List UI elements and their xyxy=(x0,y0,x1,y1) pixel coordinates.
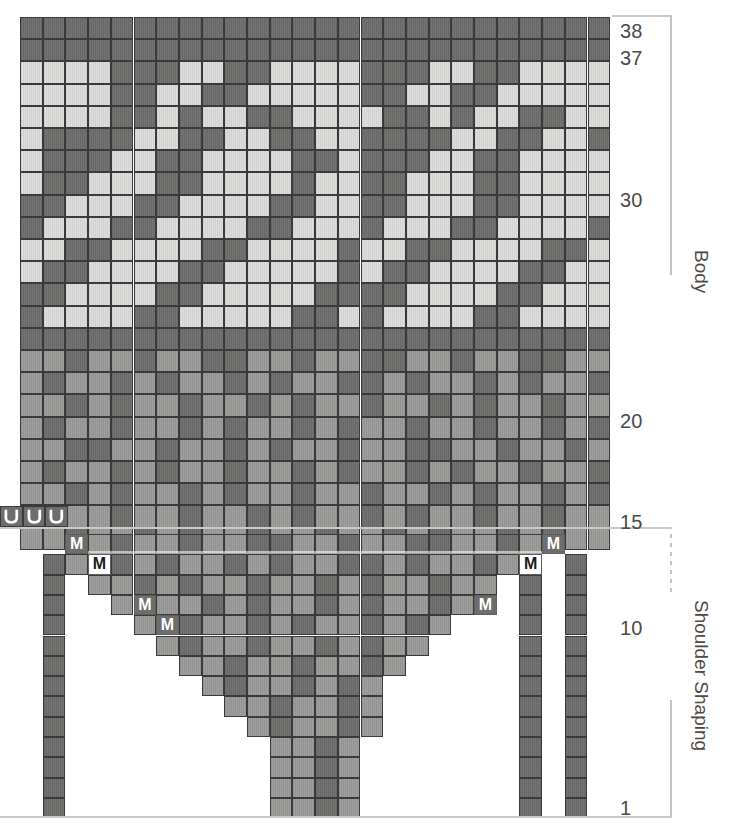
chart-cell xyxy=(542,283,565,305)
chart-cell xyxy=(270,217,293,239)
chart-cell xyxy=(361,283,384,305)
chart-cell xyxy=(20,217,43,239)
chart-cell xyxy=(111,106,134,128)
chart-cell xyxy=(315,717,338,737)
chart-cell xyxy=(588,39,611,61)
shoulder-bracket xyxy=(670,700,672,818)
chart-cell xyxy=(406,17,429,39)
shoulder-bracket-dashed xyxy=(670,534,672,594)
chart-cell xyxy=(497,394,520,416)
chart-cell xyxy=(179,128,202,150)
chart-cell xyxy=(156,195,179,217)
chart-cell xyxy=(406,106,429,128)
chart-cell xyxy=(519,737,542,757)
chart-cell xyxy=(43,17,66,39)
chart-cell xyxy=(565,172,588,194)
chart-cell xyxy=(383,417,406,439)
chart-cell xyxy=(338,61,361,83)
chart-cell xyxy=(519,84,542,106)
chart-cell xyxy=(429,417,452,439)
chart-cell xyxy=(247,283,270,305)
chart-cell xyxy=(270,128,293,150)
chart-cell xyxy=(270,717,293,737)
chart-cell xyxy=(65,483,88,505)
chart-cell xyxy=(451,350,474,372)
chart-cell xyxy=(519,439,542,461)
chart-cell xyxy=(429,84,452,106)
chart-cell xyxy=(542,417,565,439)
chart-cell xyxy=(497,39,520,61)
chart-cell xyxy=(292,106,315,128)
chart-cell xyxy=(474,575,497,595)
chart-cell xyxy=(111,595,134,615)
chart-cell xyxy=(270,106,293,128)
chart-cell xyxy=(43,483,66,505)
chart-cell xyxy=(88,306,111,328)
chart-cell xyxy=(474,372,497,394)
purl-u-icon xyxy=(45,506,68,527)
chart-cell xyxy=(429,505,452,527)
chart-cell xyxy=(270,172,293,194)
chart-cell xyxy=(361,84,384,106)
chart-cell xyxy=(451,483,474,505)
chart-cell xyxy=(43,306,66,328)
chart-cell xyxy=(565,84,588,106)
chart-cell xyxy=(270,656,293,676)
chart-cell xyxy=(292,328,315,350)
chart-cell xyxy=(429,372,452,394)
chart-cell xyxy=(542,306,565,328)
chart-cell xyxy=(451,328,474,350)
chart-cell xyxy=(179,595,202,615)
chart-cell xyxy=(383,328,406,350)
chart-cell xyxy=(111,39,134,61)
chart-cell xyxy=(156,283,179,305)
chart-cell xyxy=(565,128,588,150)
chart-cell xyxy=(519,172,542,194)
chart-cell xyxy=(111,306,134,328)
chart-cell xyxy=(270,778,293,798)
chart-cell xyxy=(43,372,66,394)
chart-cell xyxy=(247,676,270,696)
chart-cell xyxy=(338,439,361,461)
chart-cell xyxy=(429,615,452,635)
chart-cell xyxy=(565,61,588,83)
chart-cell xyxy=(292,575,315,595)
chart-cell xyxy=(134,461,157,483)
chart-cell xyxy=(247,195,270,217)
chart-cell xyxy=(588,217,611,239)
chart-cell xyxy=(111,128,134,150)
chart-cell xyxy=(179,439,202,461)
chart-cell xyxy=(565,737,588,757)
chart-cell xyxy=(519,483,542,505)
chart-cell xyxy=(406,505,429,527)
chart-cell xyxy=(179,417,202,439)
chart-cell xyxy=(519,217,542,239)
chart-cell xyxy=(111,372,134,394)
chart-cell xyxy=(565,328,588,350)
chart-cell xyxy=(88,461,111,483)
chart-cell xyxy=(565,439,588,461)
chart-cell xyxy=(292,461,315,483)
chart-cell xyxy=(134,17,157,39)
chart-cell xyxy=(111,283,134,305)
chart-cell xyxy=(361,676,384,696)
chart-cell xyxy=(406,575,429,595)
chart-cell xyxy=(247,461,270,483)
chart-cell xyxy=(383,84,406,106)
chart-cell xyxy=(338,283,361,305)
chart-cell xyxy=(134,615,157,635)
chart-cell xyxy=(247,696,270,716)
row-label-10: 10 xyxy=(620,618,643,638)
chart-cell xyxy=(429,195,452,217)
chart-cell xyxy=(429,595,452,615)
chart-cell xyxy=(588,17,611,39)
chart-cell xyxy=(156,483,179,505)
chart-cell xyxy=(451,195,474,217)
chart-cell xyxy=(156,595,179,615)
chart-cell xyxy=(202,17,225,39)
chart-cell xyxy=(156,239,179,261)
chart-cell xyxy=(224,306,247,328)
chart-cell xyxy=(361,615,384,635)
chart-cell xyxy=(270,306,293,328)
chart-cell xyxy=(88,106,111,128)
